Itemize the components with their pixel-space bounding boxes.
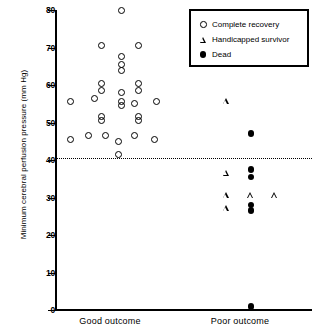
data-point-open-circle	[102, 132, 109, 139]
legend-entry-complete-recovery: Complete recovery	[199, 18, 279, 31]
data-point-open-circle	[118, 53, 125, 60]
y-tick-label: 70	[11, 44, 55, 52]
threshold-line	[57, 158, 312, 159]
data-point-open-circle	[85, 132, 92, 139]
data-point-open-circle	[153, 98, 160, 105]
data-point-open-circle	[135, 42, 142, 49]
y-tick-label: 60	[11, 81, 55, 89]
data-point-open-circle	[67, 98, 74, 105]
scatter-plot-figure: Minimum cerebral perfusion pressure (mm …	[0, 0, 316, 334]
data-point-open-circle	[91, 95, 98, 102]
data-point-open-circle	[118, 102, 125, 109]
data-point-open-circle	[67, 136, 74, 143]
data-point-filled-circle	[248, 130, 255, 137]
legend-entry-dead: Dead	[199, 48, 231, 61]
y-tick-label: 80	[11, 6, 55, 14]
data-point-filled-circle	[248, 174, 255, 181]
data-point-open-triangle	[223, 170, 229, 176]
data-point-open-circle	[98, 80, 105, 87]
legend-box: Complete recovery Handicapped survivor D…	[189, 9, 309, 67]
data-point-open-circle	[151, 136, 158, 143]
data-point-open-circle	[115, 151, 122, 158]
legend-entry-handicapped-survivor: Handicapped survivor	[199, 33, 289, 46]
data-point-open-circle	[135, 87, 142, 94]
data-point-open-circle	[131, 132, 138, 139]
data-point-open-circle	[131, 100, 138, 107]
filled-circle-icon	[199, 50, 212, 60]
legend-label: Complete recovery	[212, 20, 279, 29]
data-point-open-circle	[135, 80, 142, 87]
x-axis-line	[55, 309, 312, 311]
data-point-open-circle	[115, 138, 122, 145]
data-point-filled-circle	[248, 166, 255, 173]
y-tick-label: 30	[11, 194, 55, 202]
data-point-open-circle	[118, 7, 125, 14]
y-tick-label: 20	[11, 231, 55, 239]
x-label-poor-outcome: Poor outcome	[180, 316, 300, 326]
data-point-filled-circle	[248, 207, 255, 214]
y-tick-label: 0	[11, 306, 55, 314]
data-point-open-triangle	[223, 205, 229, 211]
data-point-open-circle	[98, 42, 105, 49]
legend-label: Handicapped survivor	[212, 35, 289, 44]
data-point-open-circle	[98, 117, 105, 124]
data-point-open-circle	[118, 67, 125, 74]
x-label-good-outcome: Good outcome	[50, 316, 170, 326]
data-point-open-triangle	[223, 192, 229, 198]
y-tick-label: 10	[11, 269, 55, 277]
data-point-open-triangle	[223, 98, 229, 104]
data-point-open-triangle	[271, 192, 277, 198]
data-point-open-triangle	[247, 192, 253, 198]
legend-label: Dead	[212, 50, 231, 59]
data-point-open-circle	[135, 117, 142, 124]
data-point-filled-circle	[248, 303, 255, 310]
y-axis-line	[55, 10, 57, 311]
open-triangle-icon	[199, 35, 212, 45]
open-circle-icon	[199, 20, 212, 30]
y-tick-label: 40	[11, 156, 55, 164]
data-point-open-circle	[98, 87, 105, 94]
y-tick-label: 50	[11, 119, 55, 127]
data-point-open-circle	[118, 89, 125, 96]
